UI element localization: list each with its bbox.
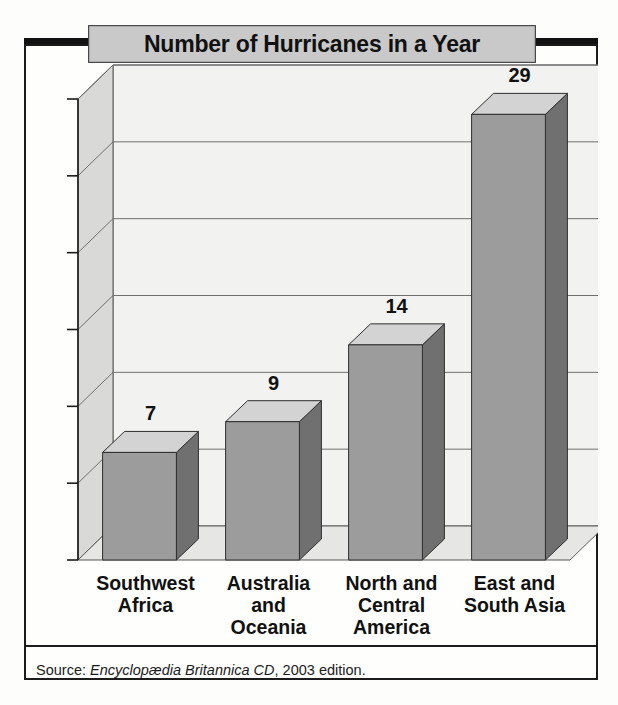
x-axis-category-labels: Southwest AfricaAustralia and OceaniaNor… [24,44,598,680]
chart-title-plate: Number of Hurricanes in a Year [88,25,536,63]
source-title: Encyclopædia Britannica CD [90,662,275,678]
x-axis-label-3: East and South Asia [440,572,589,616]
source-note: Source: Encyclopædia Britannica CD, 2003… [36,662,366,678]
source-divider [24,645,598,647]
source-suffix: , 2003 edition. [275,662,366,678]
source-prefix: Source: [36,662,90,678]
chart-title: Number of Hurricanes in a Year [144,31,480,58]
chart-plot-area: 302520151050 791429 Southwest AfricaAust… [24,44,598,680]
